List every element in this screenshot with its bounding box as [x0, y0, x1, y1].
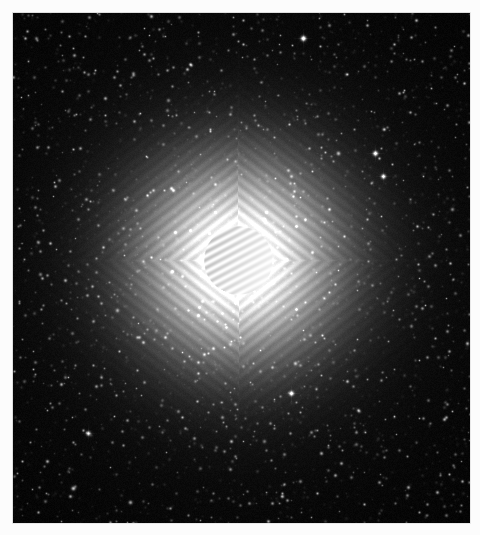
image-viewport	[0, 0, 480, 535]
plate-edge-right-icon	[470, 12, 471, 523]
star-field-plate	[13, 13, 470, 523]
plate-edge-bottom-icon	[12, 523, 471, 524]
astronomical-image-canvas	[13, 13, 470, 523]
